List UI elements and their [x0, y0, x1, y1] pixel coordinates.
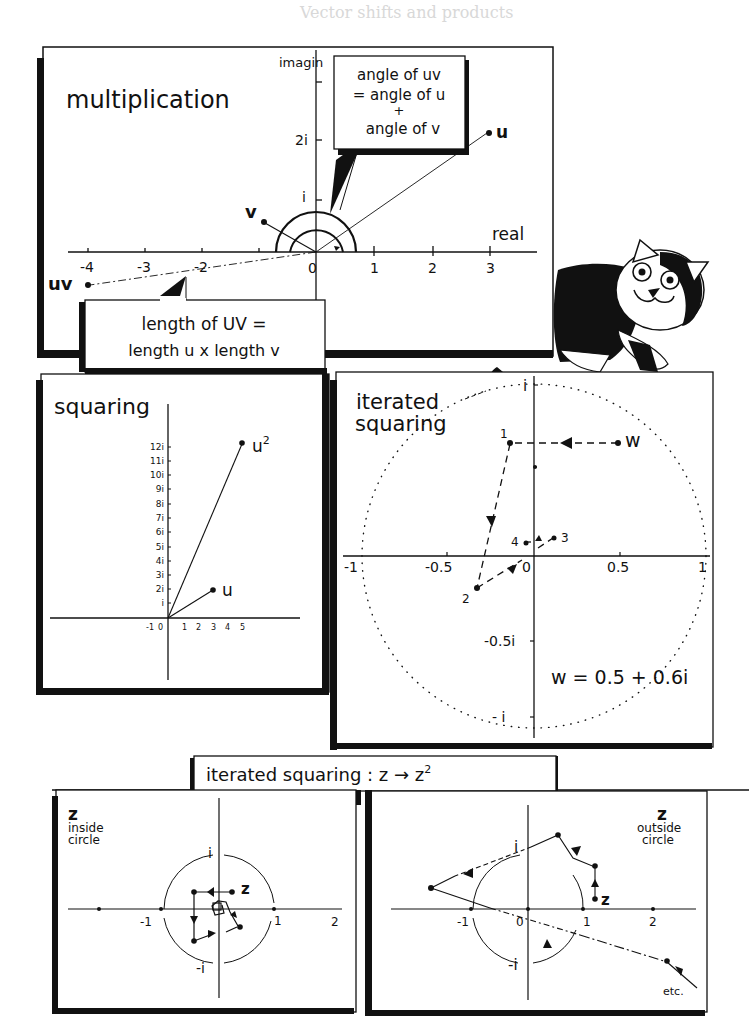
- outside-point-z: z: [601, 891, 610, 909]
- outside-label-line2: circle: [642, 833, 674, 847]
- multiplication-panel: multiplication -4 -3 -2 0 1 2 3 i 2i: [37, 47, 553, 374]
- x-tick-1: 1: [370, 260, 379, 276]
- inside-x-tick-1: 1: [274, 914, 282, 928]
- sq-x-tick-1: 1: [182, 623, 187, 632]
- length-callout-line1: length of UV =: [141, 314, 266, 334]
- inside-x-tick--1: -1: [140, 915, 152, 929]
- y-tick-2i: 2i: [295, 132, 308, 148]
- iterated-squaring-panel: iterated squaring -1 -0.5 0 0.5 1 i -0.5…: [330, 372, 713, 750]
- step-2-label: 2: [462, 592, 470, 606]
- sq-x-tick-0: 0: [158, 623, 163, 632]
- step-4-label: 4: [511, 535, 519, 549]
- iter-x-tick-1: 1: [698, 559, 707, 575]
- inside-y-tick--i: -i: [196, 960, 205, 976]
- sq-x-tick-3: 3: [211, 623, 216, 632]
- w-equation: w = 0.5 + 0.6i: [551, 666, 688, 688]
- outside-circle-panel: z outside circle -1 0 1 2 i -i: [365, 756, 707, 1016]
- outside-y-tick--i: -i: [508, 956, 518, 974]
- inside-label-line2: circle: [68, 833, 100, 847]
- etc-label: etc.: [663, 985, 684, 998]
- iterated-title-line2: squaring: [355, 412, 447, 436]
- sq-x-tick-4: 4: [225, 623, 230, 632]
- iter-x-tick-0: 0: [522, 559, 531, 575]
- iter-y-tick--0.5i: -0.5i: [484, 633, 515, 649]
- angle-callout-line1: angle of uv: [357, 66, 441, 84]
- inside-x-tick-2: 2: [331, 915, 339, 929]
- sq-y-tick-3: 3i: [156, 570, 164, 580]
- x-tick--2: -2: [194, 259, 208, 275]
- faint-heading: Vector shifts and products: [299, 3, 513, 22]
- iter-x-tick--1: -1: [344, 559, 358, 575]
- step-1-label: 1: [500, 427, 508, 441]
- squaring-title: squaring: [54, 394, 150, 419]
- x-tick-0: 0: [308, 260, 317, 276]
- illustration-canvas: Vector shifts and products multiplicatio…: [0, 0, 749, 1032]
- sq-y-tick-7: 7i: [156, 513, 164, 523]
- sq-x-tick-5: 5: [240, 623, 245, 632]
- outside-x-tick--1: -1: [457, 915, 469, 929]
- inside-point-z: z: [241, 880, 250, 898]
- angle-callout-line2: = angle of u: [353, 86, 445, 104]
- sq-y-tick-10: 10i: [150, 470, 164, 480]
- y-tick-i: i: [302, 189, 306, 205]
- iter-y-tick--i: - i: [492, 709, 505, 725]
- sq-y-tick-5: 5i: [156, 542, 164, 552]
- iter-x-tick-0.5: 0.5: [607, 559, 629, 575]
- bottom-title: iterated squaring : z → z2: [206, 763, 431, 785]
- sq-y-tick-6: 6i: [156, 527, 164, 537]
- outside-x-tick-2: 2: [649, 915, 657, 929]
- iter-x-tick--0.5: -0.5: [425, 559, 452, 575]
- iter-y-tick-i: i: [523, 377, 527, 395]
- squaring-panel: squaring i 2i 3i 4i 5i 6i 7i 8i 9i 10i 1…: [36, 374, 329, 695]
- sq-point-u-label: u: [222, 580, 233, 600]
- sq-y-tick-12: 12i: [150, 442, 164, 452]
- sq-y-tick-4: 4i: [156, 556, 164, 566]
- bottom-title-bar: iterated squaring : z → z2: [52, 756, 749, 791]
- multiplication-title: multiplication: [66, 86, 230, 114]
- length-callout-line2: length u x length v: [128, 341, 279, 360]
- sq-y-tick-1: i: [161, 598, 164, 608]
- point-w-label: w: [625, 429, 641, 451]
- iterated-title-line1: iterated: [356, 390, 439, 414]
- sq-y-tick-8: 8i: [156, 499, 164, 509]
- x-tick-2: 2: [428, 260, 437, 276]
- angle-callout-line3: +: [394, 103, 405, 118]
- angle-callout-line4: angle of v: [366, 120, 441, 138]
- outside-x-tick-1: 1: [583, 915, 591, 929]
- point-v-label: v: [245, 201, 257, 222]
- imag-axis-label: imagin: [279, 55, 323, 70]
- sq-y-tick-9: 9i: [156, 484, 164, 494]
- step-3-label: 3: [561, 531, 569, 545]
- sq-x-tick-2: 2: [196, 623, 201, 632]
- point-uv-label: uv: [48, 273, 73, 294]
- sq-x-tick--1: -1: [146, 623, 154, 632]
- sq-y-tick-11: 11i: [150, 456, 164, 466]
- inside-circle-panel: z inside circle -1 1 2 i -i: [52, 790, 361, 1014]
- sq-y-tick-2: 2i: [156, 584, 164, 594]
- x-tick--3: -3: [137, 259, 151, 275]
- inside-y-tick-i: i: [208, 845, 212, 861]
- point-u-label: u: [496, 122, 508, 142]
- x-tick--4: -4: [80, 259, 94, 275]
- x-tick-3: 3: [486, 260, 495, 276]
- real-axis-label: real: [492, 224, 524, 244]
